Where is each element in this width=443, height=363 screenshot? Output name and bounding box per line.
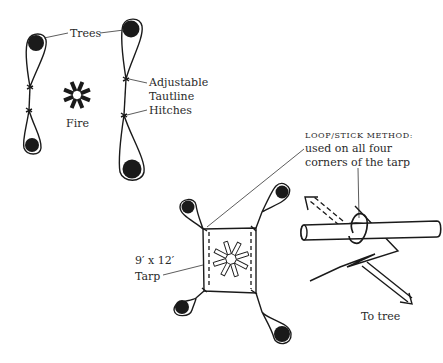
method-title: LOOP/STICK METHOD: bbox=[305, 131, 413, 140]
tree-right-bottom bbox=[123, 160, 142, 179]
fire-spoke bbox=[232, 242, 242, 255]
fire-spoke bbox=[235, 260, 248, 270]
tarp-corner-tree-top-right bbox=[256, 184, 290, 228]
tarp-size-label: 9′ x 12′ bbox=[135, 254, 175, 267]
hitch-label-line2: Tautline bbox=[149, 90, 194, 103]
tree-left-bottom bbox=[25, 138, 39, 152]
fire-spoke bbox=[221, 263, 231, 276]
tarp-corner-tree-bottom-right bbox=[256, 293, 291, 344]
tarp-corner-tree-bottom-left bbox=[174, 291, 204, 316]
fire-icon bbox=[213, 241, 249, 277]
left-rope-line bbox=[24, 34, 47, 154]
method-line1: used on all four bbox=[305, 142, 393, 155]
tarp-corner-tree-top-left bbox=[180, 200, 203, 229]
fire-icon bbox=[63, 81, 90, 108]
fire-label: Fire bbox=[66, 117, 89, 130]
hitch-label-line1: Adjustable bbox=[148, 76, 208, 89]
fire-spoke bbox=[213, 259, 227, 267]
to-tree-label: To tree bbox=[361, 310, 400, 323]
method-line2: corners of the tarp bbox=[305, 156, 410, 169]
arrow-to-tree-icon bbox=[400, 293, 412, 304]
right-rope-line bbox=[119, 19, 144, 180]
trees-label: Trees bbox=[70, 27, 102, 40]
loop-stick-illustration bbox=[301, 197, 441, 304]
tarp bbox=[201, 226, 257, 294]
fire-spoke bbox=[235, 252, 249, 260]
hitch-label-line3: Hitches bbox=[149, 104, 192, 117]
tarp-rigging-diagram: Fire Trees Adjustable Tautline Hitches 9… bbox=[0, 0, 443, 363]
tarp-label: Tarp bbox=[135, 270, 160, 283]
fire-spoke bbox=[214, 249, 227, 259]
fire-spoke bbox=[231, 263, 239, 277]
fire-spoke bbox=[224, 241, 232, 255]
